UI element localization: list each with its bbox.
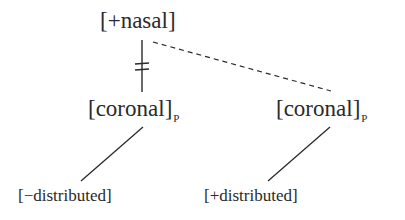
leaf-plus-distributed: [+distributed] bbox=[204, 187, 298, 204]
node-coronal-right: [coronal]P bbox=[276, 97, 367, 120]
delink-bar-bottom bbox=[135, 69, 149, 70]
node-subscript: P bbox=[173, 112, 179, 124]
root-node-nasal: [+nasal] bbox=[100, 9, 176, 32]
root-to-right-dashed-line bbox=[153, 42, 331, 91]
node-label: [coronal] bbox=[276, 96, 360, 121]
delink-bar-top bbox=[135, 63, 149, 64]
node-subscript: P bbox=[361, 112, 367, 124]
right-coronal-to-child-line bbox=[268, 127, 330, 181]
left-coronal-to-child-line bbox=[81, 127, 143, 181]
node-label: [coronal] bbox=[88, 96, 172, 121]
leaf-minus-distributed: [−distributed] bbox=[18, 187, 112, 204]
node-coronal-left: [coronal]P bbox=[88, 97, 179, 120]
